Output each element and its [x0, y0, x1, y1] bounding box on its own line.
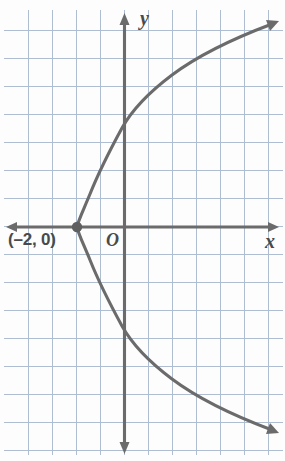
y-axis	[120, 13, 130, 454]
vertex-coordinate-label: (–2, 0)	[8, 230, 56, 250]
y-axis-arrow-up-icon	[120, 13, 130, 25]
y-axis-label: y	[140, 8, 149, 28]
y-axis-arrow-down-icon	[120, 442, 130, 454]
x-axis-label: x	[265, 231, 275, 251]
origin-label: O	[106, 231, 119, 249]
coordinate-plane-figure: y x O (–2, 0)	[0, 0, 285, 461]
vertex-point-marker	[72, 222, 82, 232]
grid-vertical-lines	[29, 10, 269, 455]
